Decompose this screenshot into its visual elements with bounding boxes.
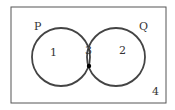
set-label-p: P [34, 20, 42, 33]
marker-dot [87, 64, 91, 68]
region-label-4: 4 [152, 85, 159, 98]
circle-q [87, 28, 145, 86]
region-label-3: 3 [85, 44, 92, 57]
set-label-q: Q [139, 20, 148, 33]
region-label-2: 2 [119, 44, 126, 57]
venn-diagram: P Q 1 3 2 4 [0, 0, 175, 110]
circle-p [32, 28, 90, 86]
region-label-1: 1 [50, 46, 57, 59]
